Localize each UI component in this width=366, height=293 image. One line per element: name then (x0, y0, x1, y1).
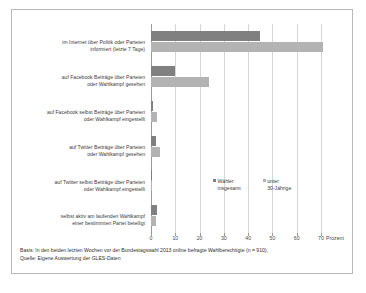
bar-waehler-insgesamt (151, 205, 157, 215)
x-tick-label: 60 (294, 235, 300, 241)
chart-legend: Wählerinsgesamt unter30-Jährige (213, 178, 291, 192)
x-tick-label: 40 (245, 235, 251, 241)
bar-unter-30-jaehrige (151, 112, 157, 122)
category-label-line: oder Wahlkampf gesehen (17, 81, 145, 88)
category-label-line: auf Facebook Beiträge über Parteien (17, 74, 145, 81)
bar-unter-30-jaehrige (151, 147, 160, 157)
x-tick-label: 20 (197, 235, 203, 241)
bar-unter-30-jaehrige (151, 181, 152, 191)
bar-waehler-insgesamt (151, 31, 260, 41)
legend-label: unter30-Jährige (267, 178, 291, 192)
bar-waehler-insgesamt (151, 66, 175, 76)
bar-waehler-insgesamt (151, 101, 153, 111)
figure-frame: im Internet über Politik oder Parteien i… (11, 9, 353, 274)
category-label-line: einer bestimmten Partei beteiligt (17, 220, 145, 227)
legend-swatch-icon (263, 179, 266, 182)
category-label-line: informiert (letzte 7 Tage) (17, 46, 145, 53)
bar-chart: im Internet über Politik oder Parteien i… (12, 10, 352, 273)
bar-waehler-insgesamt (151, 136, 156, 146)
bar-group (151, 24, 321, 59)
category-label: auf Facebook Beiträge über Parteien oder… (17, 74, 145, 89)
category-label: auf Twitter Beiträge über Parteien oder … (17, 144, 145, 159)
legend-item-waehler-insgesamt: Wählerinsgesamt (213, 178, 241, 192)
category-label-line: oder Wahlkampf eingestellt (17, 116, 145, 123)
gridline (321, 24, 322, 233)
bar-unter-30-jaehrige (151, 42, 323, 52)
category-label-line: auf Twitter Beiträge über Parteien (17, 144, 145, 151)
bar-group (151, 198, 321, 233)
bar-unter-30-jaehrige (151, 216, 156, 226)
bar-unter-30-jaehrige (151, 77, 209, 87)
x-tick-label: 50 (270, 235, 276, 241)
category-label-line: oder Wahlkampf gesehen (17, 151, 145, 158)
plot-region (151, 24, 321, 233)
x-tick-label: 30 (221, 235, 227, 241)
bar-group (151, 59, 321, 94)
legend-label: Wählerinsgesamt (218, 178, 241, 192)
category-label: auf Facebook selbst Beiträge über Partei… (17, 109, 145, 124)
category-label-line: auf Twitter selbst Beiträge über Parteie… (17, 179, 145, 186)
footnote: Basis: In den beiden letzten Wochen vor … (20, 246, 346, 262)
x-axis-label: Prozent (326, 235, 344, 241)
bar-waehler-insgesamt (151, 170, 152, 180)
legend-swatch-icon (213, 179, 216, 182)
category-label: selbst aktiv am laufenden Wahlkampf eine… (17, 213, 145, 228)
category-label: auf Twitter selbst Beiträge über Parteie… (17, 179, 145, 194)
bar-group (151, 94, 321, 129)
category-label-line: auf Facebook selbst Beiträge über Partei… (17, 109, 145, 116)
legend-item-unter-30-jaehrige: unter30-Jährige (263, 178, 292, 192)
footnote-line-basis: Basis: In den beiden letzten Wochen vor … (20, 246, 346, 254)
footnote-line-quelle: Quelle: Eigene Auswertung der GLES-Daten (20, 254, 346, 262)
x-tick-label: 10 (172, 235, 178, 241)
category-label-line: selbst aktiv am laufenden Wahlkampf (17, 213, 145, 220)
x-tick-label: 0 (150, 235, 153, 241)
x-tick-label: 70 (318, 235, 324, 241)
category-label: im Internet über Politik oder Parteien i… (17, 39, 145, 54)
category-label-line: im Internet über Politik oder Parteien (17, 39, 145, 46)
bar-group (151, 129, 321, 164)
category-label-line: oder Wahlkampf eingestellt (17, 186, 145, 193)
